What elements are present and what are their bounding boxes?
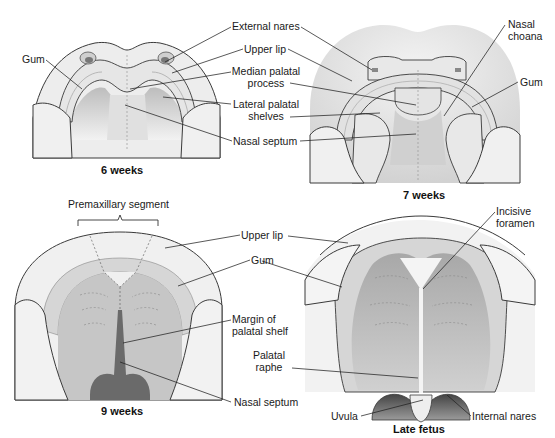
caption-9-weeks: 9 weeks (101, 405, 143, 417)
label-external-nares: External nares (232, 20, 300, 32)
label-upper-lip-9w: Upper lip (241, 229, 283, 241)
label-line-2: shelves (230, 110, 302, 122)
label-gum-7w: Gum (520, 76, 543, 88)
label-line-2: choana (508, 30, 542, 42)
caption-6-weeks: 6 weeks (101, 164, 143, 176)
label-line-1: Median palatal (230, 65, 302, 77)
label-incisive-foramen: Incisive foramen (496, 205, 535, 229)
label-gum-9w: Gum (251, 254, 274, 266)
label-line-1: Margin of (232, 313, 288, 325)
label-palatal-raphe: Palatal raphe (248, 349, 290, 373)
label-internal-nares: Internal nares (472, 410, 536, 422)
label-nasal-septum-9w: Nasal septum (234, 396, 298, 408)
caption-late-fetus: Late fetus (393, 423, 445, 435)
label-line-1: Nasal (508, 18, 542, 30)
label-line-2: raphe (248, 361, 290, 373)
label-uvula: Uvula (331, 410, 358, 422)
label-line-1: Palatal (248, 349, 290, 361)
label-gum-6w: Gum (22, 53, 45, 65)
label-premaxillary-segment: Premaxillary segment (68, 198, 169, 210)
label-upper-lip-6w: Upper lip (244, 43, 286, 55)
panel-late-fetus (305, 216, 535, 422)
label-line-2: foramen (496, 217, 535, 229)
caption-7-weeks: 7 weeks (403, 189, 445, 201)
panel-7-weeks (310, 25, 520, 183)
label-line-1: Lateral palatal (230, 98, 302, 110)
label-median-palatal-process: Median palatal process (230, 65, 302, 89)
label-nasal-septum-6w: Nasal septum (233, 135, 297, 147)
label-line-2: process (230, 77, 302, 89)
label-margin-of-palatal-shelf: Margin of palatal shelf (232, 313, 288, 337)
label-line-2: palatal shelf (232, 325, 288, 337)
label-line-1: Incisive (496, 205, 535, 217)
panel-9-weeks (15, 215, 222, 400)
palate-development-diagram: Gum External nares Upper lip Median pala… (0, 0, 555, 438)
label-nasal-choana: Nasal choana (508, 18, 542, 42)
label-lateral-palatal-shelves: Lateral palatal shelves (230, 98, 302, 122)
